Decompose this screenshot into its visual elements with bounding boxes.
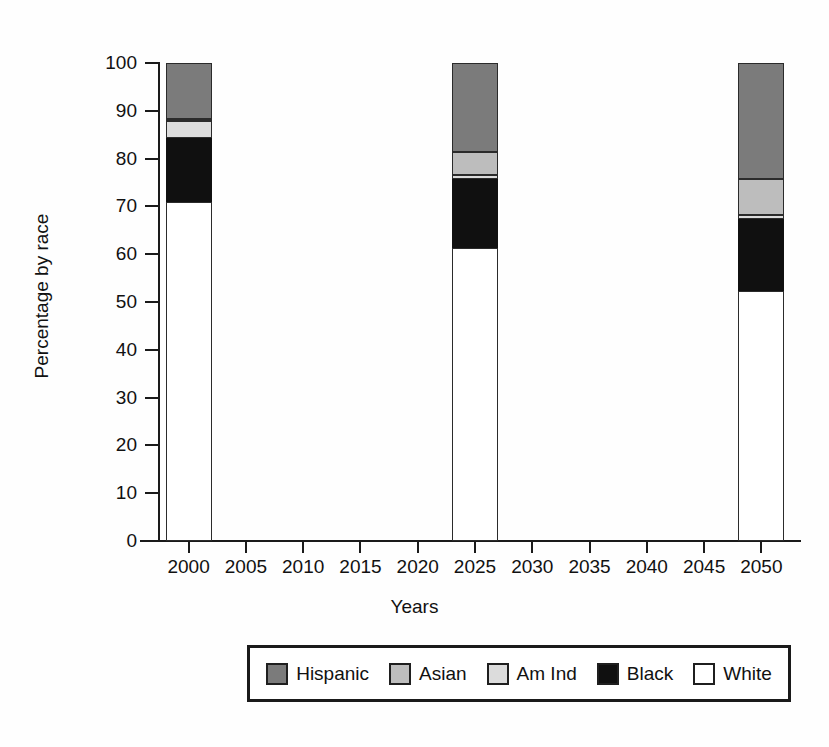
x-tick-label: 2015 <box>330 557 390 577</box>
legend-label: Asian <box>419 664 467 683</box>
x-tick-label: 2045 <box>674 557 734 577</box>
y-tick-label: 70 <box>85 196 137 215</box>
bar-segment-2050-am-ind[interactable] <box>738 215 784 219</box>
bar-segment-2000-white[interactable] <box>166 202 212 541</box>
y-tick-label: 20 <box>85 435 137 454</box>
bar-segment-2025-asian[interactable] <box>452 152 498 174</box>
legend-entry-asian[interactable]: Asian <box>389 663 467 685</box>
y-tick-label: 40 <box>85 340 137 359</box>
y-tick-label: 60 <box>85 244 137 263</box>
y-axis-title: Percentage by race <box>31 186 53 406</box>
y-tick-mark <box>145 253 158 255</box>
y-tick-mark <box>145 397 158 399</box>
chart-figure: Percentage by race 100908070605040302010… <box>0 0 829 747</box>
x-tick-label: 2035 <box>560 557 620 577</box>
x-tick-label: 2005 <box>216 557 276 577</box>
chart-legend: HispanicAsianAm IndBlackWhite <box>247 645 791 702</box>
x-tick-label: 2025 <box>445 557 505 577</box>
x-tick-mark <box>531 542 533 553</box>
x-tick-label: 2000 <box>159 557 219 577</box>
x-tick-mark <box>589 542 591 553</box>
y-tick-mark <box>145 110 158 112</box>
y-tick-mark <box>145 205 158 207</box>
legend-entry-am-ind[interactable]: Am Ind <box>487 663 577 685</box>
x-tick-mark <box>417 542 419 553</box>
y-tick-mark <box>145 349 158 351</box>
legend-entry-white[interactable]: White <box>693 663 772 685</box>
y-tick-mark <box>145 158 158 160</box>
legend-swatch-icon <box>389 663 411 685</box>
legend-entry-hispanic[interactable]: Hispanic <box>266 663 369 685</box>
x-tick-mark <box>703 542 705 553</box>
x-tick-mark <box>646 542 648 553</box>
y-tick-label: 80 <box>85 149 137 168</box>
bar-segment-2000-black[interactable] <box>166 138 212 202</box>
y-tick-mark <box>145 301 158 303</box>
y-tick-mark <box>145 444 158 446</box>
bar-segment-2000-hispanic[interactable] <box>166 63 212 119</box>
legend-entry-black[interactable]: Black <box>597 663 673 685</box>
x-tick-mark <box>188 542 190 553</box>
y-tick-label: 10 <box>85 483 137 502</box>
bar-segment-2000-asian[interactable] <box>166 119 212 121</box>
x-tick-mark <box>245 542 247 553</box>
legend-label: Am Ind <box>517 664 577 683</box>
x-axis-title: Years <box>0 596 829 618</box>
x-tick-mark <box>760 542 762 553</box>
y-tick-mark <box>145 62 158 64</box>
legend-label: Hispanic <box>296 664 369 683</box>
x-tick-label: 2040 <box>617 557 677 577</box>
bar-segment-2025-am-ind[interactable] <box>452 175 498 179</box>
y-tick-label: 90 <box>85 101 137 120</box>
legend-swatch-icon <box>487 663 509 685</box>
y-tick-mark <box>145 492 158 494</box>
bar-group-2000[interactable] <box>166 63 212 541</box>
bar-group-2050[interactable] <box>738 63 784 541</box>
x-tick-label: 2010 <box>273 557 333 577</box>
y-tick-label: 100 <box>85 53 137 72</box>
x-tick-mark <box>359 542 361 553</box>
bar-segment-2050-asian[interactable] <box>738 179 784 216</box>
y-tick-label: 0 <box>85 531 137 550</box>
y-tick-label: 50 <box>85 292 137 311</box>
y-tick-label: 30 <box>85 388 137 407</box>
x-tick-mark <box>474 542 476 553</box>
plot-area <box>160 63 790 541</box>
x-tick-label: 2050 <box>731 557 791 577</box>
bar-segment-2025-white[interactable] <box>452 248 498 541</box>
legend-swatch-icon <box>693 663 715 685</box>
x-tick-label: 2030 <box>502 557 562 577</box>
legend-label: Black <box>627 664 673 683</box>
bar-segment-2000-am-ind[interactable] <box>166 121 212 138</box>
bar-group-2025[interactable] <box>452 63 498 541</box>
y-tick-mark <box>145 540 158 542</box>
bar-segment-2050-black[interactable] <box>738 219 784 291</box>
bar-segment-2050-white[interactable] <box>738 291 784 541</box>
x-tick-label: 2020 <box>388 557 448 577</box>
bar-segment-2050-hispanic[interactable] <box>738 63 784 179</box>
legend-swatch-icon <box>597 663 619 685</box>
legend-label: White <box>723 664 772 683</box>
legend-swatch-icon <box>266 663 288 685</box>
bar-segment-2025-hispanic[interactable] <box>452 63 498 152</box>
x-tick-mark <box>302 542 304 553</box>
bar-segment-2025-black[interactable] <box>452 179 498 248</box>
